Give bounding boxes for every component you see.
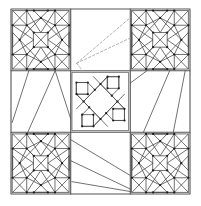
- seam-node: [159, 140, 161, 142]
- seam-node: [81, 114, 83, 116]
- seam-node: [54, 177, 56, 179]
- seam-node: [26, 133, 28, 135]
- seam-node: [173, 191, 175, 193]
- seam-node: [123, 119, 125, 121]
- seam-node: [33, 68, 35, 70]
- seam-node: [180, 39, 182, 41]
- seam-node: [92, 114, 94, 116]
- seam-node: [180, 162, 182, 164]
- seam-node: [47, 68, 49, 70]
- seam-node: [152, 191, 154, 193]
- seam-node: [54, 68, 56, 70]
- seam-node: [152, 133, 154, 135]
- seam-node: [54, 53, 56, 55]
- seam-node: [118, 87, 120, 89]
- seam-node: [12, 53, 14, 55]
- seam-node: [88, 106, 90, 108]
- seam-node: [87, 93, 89, 95]
- quilt-diagram-canvas: Quilt block construction diagram Three-b…: [0, 0, 201, 206]
- seam-node: [145, 133, 147, 135]
- seam-node: [94, 89, 96, 91]
- seam-node: [26, 24, 28, 26]
- seam-node: [111, 95, 113, 97]
- seam-node: [87, 81, 89, 83]
- seam-node: [99, 83, 101, 85]
- seam-node: [138, 39, 140, 41]
- star-block-top-right: [131, 10, 190, 71]
- seam-node: [33, 46, 35, 48]
- seam-node: [159, 17, 161, 19]
- seam-node: [54, 10, 56, 12]
- seam-node: [75, 81, 77, 83]
- seam-node: [47, 133, 49, 135]
- seam-node: [173, 147, 175, 149]
- seam-node: [68, 147, 70, 149]
- seam-node: [54, 147, 56, 149]
- seam-node: [106, 76, 108, 78]
- seam-node: [81, 125, 83, 127]
- seam-node: [145, 10, 147, 12]
- seam-node: [152, 10, 154, 12]
- seam-node: [187, 177, 189, 179]
- seam-node: [33, 191, 35, 193]
- seam-node: [47, 191, 49, 193]
- seam-node: [118, 76, 120, 78]
- seam-node: [112, 108, 114, 110]
- seam-node: [166, 31, 168, 33]
- seam-node: [173, 133, 175, 135]
- seam-node: [68, 53, 70, 55]
- seam-node: [131, 53, 133, 55]
- seam-node: [123, 108, 125, 110]
- seam-node: [19, 39, 21, 41]
- seam-node: [75, 93, 77, 95]
- seam-node: [40, 140, 42, 142]
- seam-node: [99, 118, 101, 120]
- quilt-diagram-root: Quilt block construction diagram Three-b…: [0, 0, 201, 206]
- seam-node: [40, 61, 42, 63]
- seam-node: [187, 147, 189, 149]
- star-block-bottom-left: [12, 133, 71, 194]
- seam-node: [47, 155, 49, 157]
- seam-node: [106, 87, 108, 89]
- seam-node: [173, 68, 175, 70]
- star-block-bottom-right: [131, 133, 190, 194]
- seam-node: [26, 147, 28, 149]
- seam-node: [26, 177, 28, 179]
- seam-node: [166, 169, 168, 171]
- seam-node: [131, 177, 133, 179]
- seam-node: [47, 46, 49, 48]
- seam-node: [152, 46, 154, 48]
- seam-node: [33, 155, 35, 157]
- seam-node: [33, 133, 35, 135]
- seam-node: [166, 191, 168, 193]
- seam-node: [152, 68, 154, 70]
- seam-node: [145, 53, 147, 55]
- seam-node: [68, 177, 70, 179]
- seam-node: [26, 68, 28, 70]
- seam-node: [12, 24, 14, 26]
- seam-node: [138, 162, 140, 164]
- seam-node: [152, 31, 154, 33]
- seam-node: [166, 46, 168, 48]
- seam-node: [112, 119, 114, 121]
- seam-node: [159, 184, 161, 186]
- seam-node: [131, 24, 133, 26]
- seam-node: [145, 191, 147, 193]
- star-block-top-left: [12, 10, 71, 71]
- seam-node: [159, 61, 161, 63]
- seam-node: [145, 177, 147, 179]
- seam-node: [166, 155, 168, 157]
- seam-node: [54, 24, 56, 26]
- seam-node: [131, 147, 133, 149]
- seam-node: [26, 10, 28, 12]
- seam-node: [173, 10, 175, 12]
- seam-node: [166, 10, 168, 12]
- seam-node: [187, 53, 189, 55]
- seam-node: [19, 162, 21, 164]
- seam-node: [12, 147, 14, 149]
- seam-node: [12, 177, 14, 179]
- seam-node: [26, 53, 28, 55]
- seam-node: [47, 10, 49, 12]
- seam-node: [61, 39, 63, 41]
- seam-node: [105, 112, 107, 114]
